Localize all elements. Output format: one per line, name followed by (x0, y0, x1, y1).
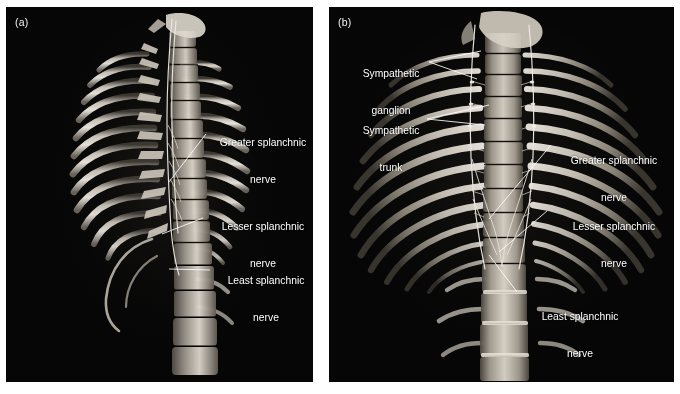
annotation-line-1: Sympathetic (345, 68, 437, 80)
panel-b-label: (b) (338, 16, 351, 28)
annotation-line-1: Lesser splanchnic (553, 221, 675, 233)
annotation-line-1: Least splanchnic (208, 275, 324, 287)
panel-a-label: (a) (15, 16, 28, 28)
annotation-line-1: Greater splanchnic (205, 137, 321, 149)
annotation-sympathetic-trunk-b: Sympathetic trunk (345, 100, 437, 199)
annotation-line-1: Sympathetic (345, 125, 437, 137)
annotation-line-1: Greater splanchnic (553, 155, 675, 167)
annotation-lesser-splanchnic-nerve-b: Lesser splanchnic nerve (553, 196, 675, 295)
annotation-line-2: nerve (519, 348, 641, 360)
annotation-line-2: nerve (205, 174, 321, 186)
annotation-line-2: nerve (208, 312, 324, 324)
annotation-line-2: trunk (345, 162, 437, 174)
annotation-line-1: Lesser splanchnic (205, 221, 321, 233)
anatomical-figure: (a) Greater splanchnic nerve Lesser spla… (0, 0, 680, 394)
annotation-line-1: Least splanchnic (519, 311, 641, 323)
annotation-least-splanchnic-nerve-a: Least splanchnic nerve (208, 250, 324, 349)
annotation-line-2: nerve (553, 258, 675, 270)
annotation-least-splanchnic-nerve-b: Least splanchnic nerve (519, 286, 641, 385)
